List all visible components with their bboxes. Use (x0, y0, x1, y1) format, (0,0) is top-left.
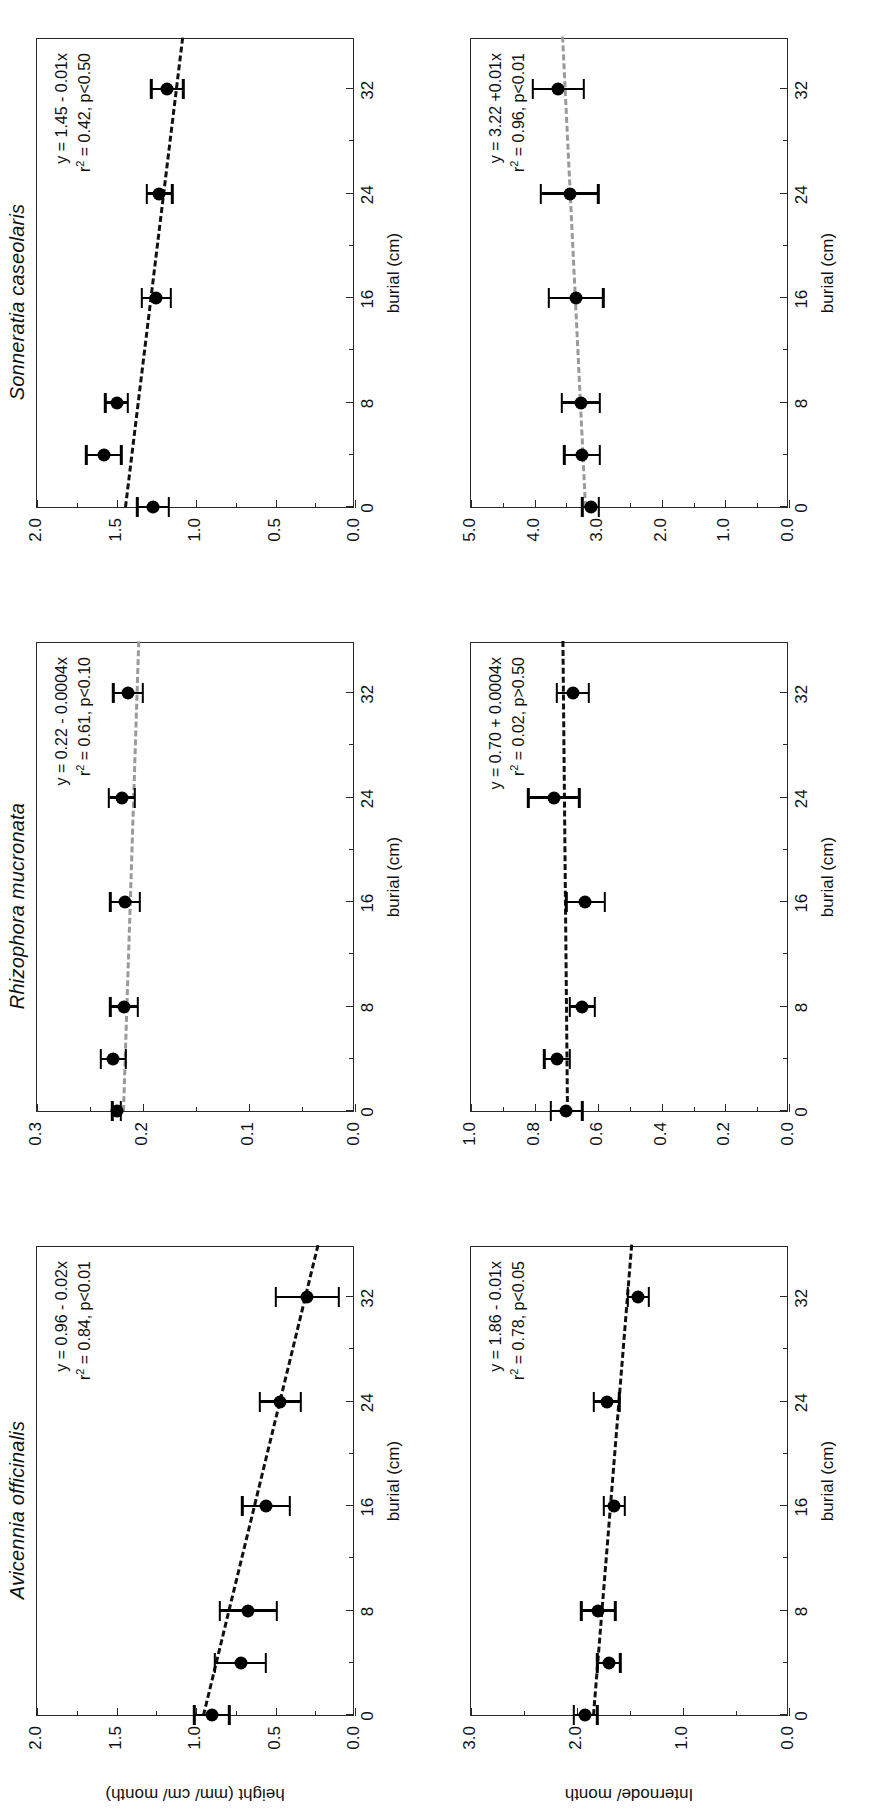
y-axis-tick-label: 2.0 (651, 518, 671, 542)
x-axis-tick-label: 24 (792, 185, 812, 204)
error-bar-cap (85, 445, 87, 465)
y-axis-tick-label: 0.5 (265, 518, 285, 542)
y-axis-tick (37, 1708, 38, 1716)
y-axis-tick-label: 1.5 (106, 518, 126, 542)
x-axis-minor-tick (783, 1557, 788, 1558)
y-axis-tick-label: 0.2 (132, 1122, 152, 1146)
y-axis-tick (789, 500, 790, 508)
error-bar-cap (120, 445, 122, 465)
y-axis-tick (196, 500, 197, 508)
error-bar-cap (599, 393, 601, 413)
x-axis-tick-label: 24 (358, 185, 378, 204)
x-axis-tick (346, 901, 354, 902)
error-bar-cap (563, 445, 565, 465)
x-axis-tick (780, 1110, 788, 1111)
y-axis-minor-tick (196, 1107, 197, 1112)
y-axis-tick-label: 1.5 (106, 1726, 126, 1750)
regression-r2: r2 = 0.78, p<0.05 (507, 1261, 530, 1380)
y-axis-minor-tick (694, 1107, 695, 1112)
x-axis-tick (346, 1401, 354, 1402)
error-bar-cap (182, 79, 184, 99)
x-axis-tick (346, 297, 354, 298)
regression-r2: r2 = 0.02, p>0.50 (507, 657, 530, 790)
y-axis-tick-label: 0.6 (587, 1122, 607, 1146)
x-axis-tick (780, 1505, 788, 1506)
error-bar-cap (214, 1653, 216, 1673)
x-axis-tick-label: 16 (792, 290, 812, 309)
y-axis-tick-label: 2.0 (26, 518, 46, 542)
x-axis-tick (346, 1296, 354, 1297)
regression-equation: y = 1.86 - 0.01x (485, 1261, 507, 1380)
error-bar-cap (597, 184, 599, 204)
x-axis-minor-tick (349, 245, 354, 246)
error-bar-cap (258, 1392, 260, 1412)
error-bar-cap (171, 184, 173, 204)
x-axis-tick-label: 16 (358, 290, 378, 309)
error-bar-cap (125, 1049, 127, 1069)
error-bar-cap (627, 1287, 629, 1307)
y-axis-tick (535, 1104, 536, 1112)
error-bar-cap (547, 288, 549, 308)
regression-fit-line (122, 641, 140, 1111)
x-axis-tick-label: 8 (792, 1607, 812, 1616)
y-axis-minor-tick (757, 1107, 758, 1112)
x-axis-tick-label: 16 (792, 894, 812, 913)
y-axis-tick-label: 4.0 (524, 518, 544, 542)
data-point (242, 1604, 255, 1617)
x-axis-tick-label: 8 (792, 1003, 812, 1012)
x-axis-tick (346, 692, 354, 693)
data-point (122, 687, 135, 700)
plot-area: y = 0.22 - 0.0004xr2 = 0.61, p<0.10 (36, 642, 354, 1112)
x-axis-tick (780, 692, 788, 693)
x-axis-minor-tick (783, 744, 788, 745)
x-axis-tick (780, 1610, 788, 1611)
regression-equation: y = 0.96 - 0.02x (51, 1261, 73, 1380)
y-axis-tick-label: 1.0 (185, 1726, 205, 1750)
x-axis-minor-tick (783, 245, 788, 246)
data-point (579, 1709, 592, 1722)
error-bar-cap (169, 288, 171, 308)
y-axis-tick (471, 500, 472, 508)
error-bar-cap (109, 997, 111, 1017)
x-axis-tick (780, 88, 788, 89)
y-axis-tick-label: 0.5 (265, 1726, 285, 1750)
error-bar-cap (614, 1601, 616, 1621)
y-axis-tick-label: 0.4 (651, 1122, 671, 1146)
data-point (600, 1395, 613, 1408)
x-axis-tick (346, 1006, 354, 1007)
x-axis-title: burial (cm) (818, 642, 838, 1112)
error-bar-cap (142, 683, 144, 703)
error-bar-cap (139, 892, 141, 912)
error-bar-cap (596, 1653, 598, 1673)
x-axis-tick-label: 0 (358, 1107, 378, 1116)
data-point (575, 396, 588, 409)
x-axis-tick (346, 402, 354, 403)
data-point (563, 187, 576, 200)
y-axis-tick-label: 3.0 (460, 1726, 480, 1750)
regression-r2: r2 = 0.61, p<0.10 (73, 657, 96, 786)
x-axis-tick-label: 24 (792, 789, 812, 808)
y-axis-tick-label: 0.3 (26, 1122, 46, 1146)
data-point (107, 1052, 120, 1065)
x-axis-tick-label: 24 (358, 1393, 378, 1412)
y-axis-tick (535, 500, 536, 508)
data-point (579, 896, 592, 909)
data-point (150, 292, 163, 305)
y-axis-minor-tick (156, 1711, 157, 1716)
y-axis-minor-tick (630, 503, 631, 508)
data-point (115, 791, 128, 804)
error-bar-cap (109, 892, 111, 912)
y-axis-tick-label: 1.0 (185, 518, 205, 542)
error-bar-cap (141, 288, 143, 308)
error-bar-cap (219, 1601, 221, 1621)
x-axis-minor-tick (349, 1453, 354, 1454)
error-bar-cap (598, 497, 600, 517)
error-bar-cap (289, 1496, 291, 1516)
y-axis-minor-tick (315, 1711, 316, 1716)
panel-avicennia-internode: y = 1.86 - 0.01xr2 = 0.78, p<0.050816243… (470, 1246, 850, 1716)
error-bar-cap (543, 1049, 545, 1069)
y-axis-tick (355, 1708, 356, 1716)
y-axis-minor-tick (302, 1107, 303, 1112)
x-axis-minor-tick (349, 744, 354, 745)
data-point (118, 896, 131, 909)
